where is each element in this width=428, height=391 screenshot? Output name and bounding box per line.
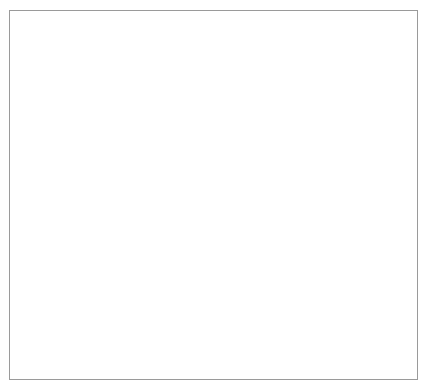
sphere-graph-canvas[interactable] [10, 11, 418, 380]
hyperbolic-graph-viewer[interactable] [9, 10, 418, 380]
